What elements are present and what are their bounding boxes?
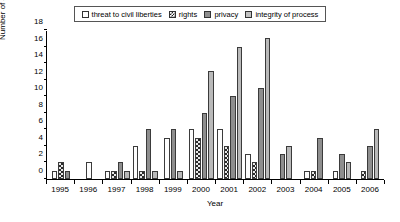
plot-area: 024681012141618 (46, 31, 384, 180)
x-tick-label: 1997 (102, 185, 130, 197)
bar (361, 171, 367, 179)
x-axis-labels: 1995199619971998199920002001200220032004… (46, 185, 384, 197)
bar (374, 129, 380, 179)
bar (52, 171, 58, 179)
bar (258, 88, 264, 179)
bar (58, 162, 64, 179)
legend-item-threat-to-civil-liberties: threat to civil liberties (82, 10, 162, 19)
bar-group-2001 (215, 31, 243, 179)
bar-group-2006 (356, 31, 384, 179)
x-tick-mark (215, 180, 216, 184)
x-tick-mark (243, 180, 244, 184)
bar (224, 146, 230, 179)
bar (65, 171, 71, 179)
y-tick-label: 4 (23, 134, 47, 142)
x-tick-mark (187, 180, 188, 184)
bar (367, 146, 373, 179)
bar (304, 171, 310, 179)
x-tick-mark (74, 180, 75, 184)
x-tick-label: 2006 (356, 185, 384, 197)
bar-group-2005 (328, 31, 356, 179)
bar-group-2000 (187, 31, 215, 179)
y-tick-label: 6 (23, 117, 47, 125)
x-tick-label: 1996 (74, 185, 102, 197)
bar (280, 154, 286, 179)
y-tick-label: 14 (23, 51, 47, 59)
y-tick-label: 0 (23, 167, 47, 175)
bar (164, 138, 170, 179)
bar (265, 38, 271, 179)
bar (195, 138, 201, 179)
bar (230, 96, 236, 179)
x-tick-label: 1998 (131, 185, 159, 197)
bar (139, 171, 145, 179)
x-tick-mark (328, 180, 329, 184)
bar-group-2004 (300, 31, 328, 179)
bar (133, 146, 139, 179)
y-tick-label: 2 (23, 150, 47, 158)
bar-chart: threat to civil liberties rights privacy… (0, 0, 400, 222)
dark-gray-square-icon (204, 11, 211, 18)
bar (105, 171, 111, 179)
bar-group-1995 (47, 31, 75, 179)
bar-group-2002 (244, 31, 272, 179)
x-tick-label: 2005 (328, 185, 356, 197)
y-tick-label: 12 (23, 68, 47, 76)
legend-label: integrity of process (255, 10, 318, 19)
legend-label: threat to civil liberties (92, 10, 162, 19)
bar (202, 113, 208, 179)
x-tick-label: 2001 (215, 185, 243, 197)
x-tick-mark (131, 180, 132, 184)
bar (86, 162, 92, 179)
bar-group-1999 (159, 31, 187, 179)
bar (252, 162, 258, 179)
chart-legend: threat to civil liberties rights privacy… (74, 6, 326, 22)
x-tick-label: 2003 (271, 185, 299, 197)
legend-item-rights: rights (169, 10, 197, 19)
y-axis-title: Number of articles (0, 0, 7, 40)
bar (118, 162, 124, 179)
y-tick-label: 18 (23, 18, 47, 26)
bar (245, 154, 251, 179)
y-tick-label: 8 (23, 101, 47, 109)
open-square-icon (82, 11, 89, 18)
bar (286, 146, 292, 179)
x-tick-mark (46, 180, 47, 184)
x-tick-mark (300, 180, 301, 184)
x-tick-mark (356, 180, 357, 184)
x-tick-label: 2000 (187, 185, 215, 197)
bar (146, 129, 152, 179)
bar (237, 47, 243, 179)
bar (333, 171, 339, 179)
x-tick-label: 2004 (300, 185, 328, 197)
bar-groups (47, 31, 384, 179)
y-tick-mark (44, 29, 47, 30)
bar (217, 129, 223, 179)
legend-item-privacy: privacy (204, 10, 238, 19)
bar (111, 171, 117, 179)
bar (189, 129, 195, 179)
y-tick-label: 10 (23, 84, 47, 92)
x-tick-mark (159, 180, 160, 184)
x-tick-label: 2002 (243, 185, 271, 197)
bar-group-1997 (103, 31, 131, 179)
bar (346, 162, 352, 179)
y-tick-label: 16 (23, 35, 47, 43)
bar (124, 171, 130, 179)
bar (177, 171, 183, 179)
x-tick-mark (384, 180, 385, 184)
bar-group-1998 (131, 31, 159, 179)
bar (339, 154, 345, 179)
bar (152, 171, 158, 179)
legend-item-integrity-of-process: integrity of process (245, 10, 318, 19)
x-tick-label: 1999 (159, 185, 187, 197)
light-gray-square-icon (245, 11, 252, 18)
x-axis-title: Year (46, 199, 384, 208)
bar-group-1996 (75, 31, 103, 179)
x-tick-mark (271, 180, 272, 184)
legend-label: privacy (214, 10, 238, 19)
bar (311, 171, 317, 179)
bar (208, 71, 214, 179)
x-tick-label: 1995 (46, 185, 74, 197)
checkered-square-icon (169, 11, 176, 18)
